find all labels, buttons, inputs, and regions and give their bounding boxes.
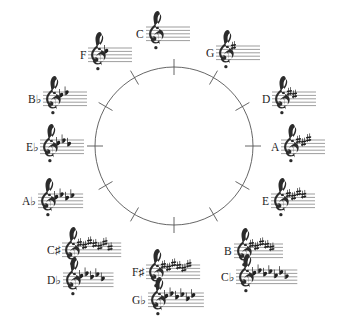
key-node-gb[interactable]: G♭ [132,281,204,321]
key-node-g[interactable]: G [206,34,260,74]
key-label-e: E [262,196,271,208]
flat-sign [70,189,74,198]
stave-db [63,261,114,301]
sharp-sign [259,237,264,246]
key-signature-a [281,128,325,168]
key-node-db[interactable]: D♭ [47,261,113,301]
key-label-gb: G♭ [132,295,148,307]
flat-sign [263,268,267,277]
key-node-cb[interactable]: C♭ [221,258,297,298]
stave-eb [40,128,84,168]
stave-gb [148,281,204,321]
stave-d [272,80,316,120]
sharp-sign [77,238,82,247]
key-label-db: D♭ [47,275,63,287]
flat-sign [175,291,179,300]
key-signature-d [272,80,316,120]
key-node-e[interactable]: E [262,182,315,222]
flat-sign [285,270,289,279]
flat-sign [79,270,83,279]
stave-c [146,15,190,55]
flat-sign [57,137,61,146]
key-signature-bb [43,80,87,120]
key-signature-g [216,34,260,74]
sharp-sign [301,138,306,147]
flat-sign [65,192,69,201]
flat-sign [62,134,66,143]
circle-tick-7 [131,207,139,221]
circle-tick-4 [235,182,249,190]
key-signature-gb [148,281,204,321]
circle-tick-10 [99,103,113,111]
key-label-f: F [80,50,88,62]
flat-sign [68,138,72,147]
key-signature-ab [38,182,83,222]
stave-ab [38,182,83,222]
circle-of-fifths-diagram: CGDAEBC♭F♯G♭C♯D♭A♭E♭B♭F [0,0,347,325]
stave-cb [236,258,297,298]
key-label-bb: B♭ [28,94,43,106]
flat-sign [105,45,109,54]
sharp-sign [296,135,301,144]
flat-sign [180,288,184,297]
key-label-c: C [136,29,146,41]
key-node-c[interactable]: C [136,15,190,55]
flat-sign [59,188,63,197]
key-node-ab[interactable]: A♭ [22,182,83,222]
sharp-sign [249,239,254,248]
flat-sign [164,290,168,299]
key-node-a[interactable]: A [271,128,325,168]
key-node-bb[interactable]: B♭ [28,80,87,120]
sharp-sign [82,241,87,250]
key-signature-cb [236,258,297,298]
sharp-sign [231,41,236,50]
key-node-f[interactable]: F [80,36,132,76]
sharp-sign [187,259,192,268]
key-label-a: A [271,142,281,154]
key-signature-c [146,15,190,55]
sharp-sign [296,187,301,196]
key-signature-eb [40,128,84,168]
flat-sign [95,268,99,277]
key-node-d[interactable]: D [262,80,316,120]
key-label-csharp: C♯ [47,245,62,257]
stave-a [281,128,325,168]
flat-sign [84,267,88,276]
flat-sign [269,265,273,274]
sharp-sign [286,189,291,198]
flat-sign [169,287,173,296]
flat-sign [54,191,58,200]
sharp-sign [103,237,108,246]
sharp-sign [287,87,292,96]
sharp-sign [88,236,93,245]
flat-sign [90,271,94,280]
key-label-g: G [206,48,216,60]
flat-sign [65,86,69,95]
key-signature-f [88,36,132,76]
key-label-cb: C♭ [221,272,236,284]
sharp-sign [166,263,171,272]
key-signature-db [63,261,114,301]
circle-tick-8 [99,182,113,190]
key-label-ab: A♭ [22,196,38,208]
sharp-sign [306,133,311,142]
key-signature-e [271,182,315,222]
circle-outline [95,67,253,225]
circle-tick-2 [235,103,249,111]
stave-bb [43,80,87,120]
stave-g [216,34,260,74]
key-label-fsharp: F♯ [132,267,146,279]
key-label-eb: E♭ [26,142,40,154]
circle-tick-5 [210,207,218,221]
sharp-sign [161,260,166,269]
sharp-sign [254,242,259,251]
sharp-sign [292,90,297,99]
sharp-sign [171,258,176,267]
key-label-b: B [224,246,234,258]
key-label-d: D [262,94,272,106]
flat-sign [258,264,262,273]
key-node-eb[interactable]: E♭ [26,128,84,168]
flat-sign [59,89,63,98]
stave-e [271,182,315,222]
stave-f [88,36,132,76]
